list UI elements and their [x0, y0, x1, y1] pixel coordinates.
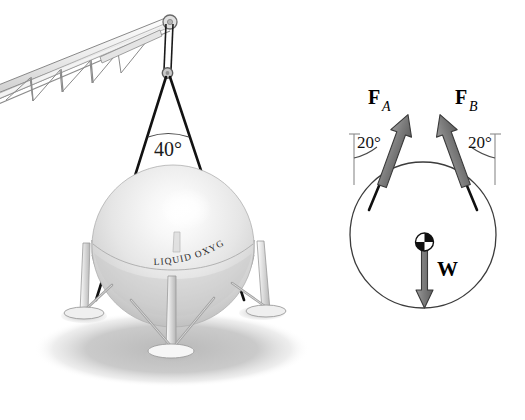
tank-assembly: LIQUID OXYGEN — [0, 0, 286, 363]
figure-svg: 40° LIQUID OXYGEN — [0, 0, 525, 420]
crane-boom — [0, 15, 177, 106]
sling-angle-arc — [148, 134, 189, 138]
fbd-force-a-subscript: A — [381, 99, 391, 114]
fbd-force-b-subscript: B — [469, 99, 478, 114]
center-of-gravity-icon — [416, 233, 434, 251]
sling-angle-label: 40° — [154, 138, 182, 160]
free-body-diagram: 20° 20° F A F B W — [349, 86, 501, 308]
sling-angle-annotation: 40° — [148, 134, 189, 161]
hoist-cable — [164, 24, 173, 70]
crane-and-tank-pictorial: 40° LIQUID OXYGEN — [0, 0, 310, 387]
fbd-angle-b-annotation: 20° — [468, 133, 501, 185]
fbd-force-a-label: F — [368, 86, 380, 108]
figure-canvas: 40° LIQUID OXYGEN — [0, 0, 525, 420]
fbd-weight-label: W — [437, 257, 458, 281]
fbd-angle-b-label: 20° — [468, 133, 492, 152]
fbd-force-b-label: F — [455, 86, 467, 108]
fbd-angle-a-label: 20° — [357, 133, 381, 152]
fbd-weight-arrow — [416, 246, 433, 308]
tank-highlight — [160, 188, 212, 230]
fbd-angle-a-annotation: 20° — [349, 133, 381, 185]
